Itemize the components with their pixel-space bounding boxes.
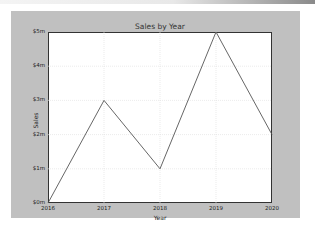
x-tick-label: 2017 xyxy=(89,205,119,211)
x-axis-label: Year xyxy=(48,214,272,221)
x-tick-label: 2019 xyxy=(201,205,231,211)
sales-line xyxy=(48,32,272,203)
y-tick-label: $1m xyxy=(15,165,45,171)
y-axis-label: Sales xyxy=(32,106,39,136)
chart-title: Sales by Year xyxy=(48,22,272,31)
y-tick-label: $4m xyxy=(15,62,45,68)
x-tick-label: 2016 xyxy=(33,205,63,211)
y-tick-label: $3m xyxy=(15,96,45,102)
chart-canvas xyxy=(0,0,315,238)
x-tick-label: 2018 xyxy=(145,205,175,211)
grid-lines xyxy=(48,32,272,203)
y-tick-label: $5m xyxy=(15,28,45,34)
y-tick-label: $2m xyxy=(15,131,45,137)
x-tick-label: 2020 xyxy=(257,205,287,211)
